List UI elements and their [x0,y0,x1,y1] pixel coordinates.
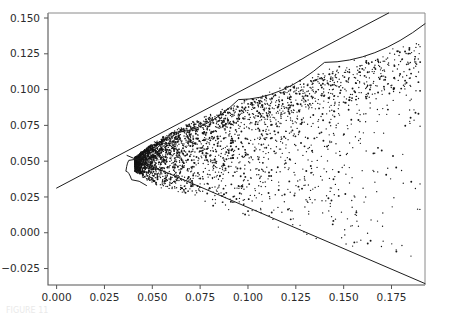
x-tick-label: 0.025 [89,291,119,303]
x-tick-label: 0.125 [281,291,311,303]
y-tick-label: 0.125 [10,47,40,59]
scatter-figure: −0.0250.0000.0250.0500.0750.1000.1250.15… [0,0,451,318]
upper-envelope-curve [129,24,425,161]
x-axis-tick-labels: 0.0000.0250.0500.0750.1000.1250.1500.175 [42,291,407,303]
x-tick-label: 0.150 [329,291,359,303]
y-axis-tick-labels: −0.0250.0000.0250.0500.0750.1000.1250.15… [1,12,40,275]
y-tick-label: 0.150 [10,12,40,24]
y-tick-label: 0.025 [10,191,40,203]
x-axis-ticks [57,285,392,289]
axes-frame [48,13,425,285]
upper-tangent-line [57,13,389,188]
x-tick-label: 0.000 [42,291,72,303]
y-tick-label: 0.000 [10,226,40,238]
x-tick-label: 0.075 [185,291,215,303]
y-tick-label: 0.050 [10,155,40,167]
x-tick-label: 0.175 [376,291,406,303]
y-tick-label: −0.025 [1,262,40,274]
plot-canvas: −0.0250.0000.0250.0500.0750.1000.1250.15… [0,0,451,318]
lower-boundary-line [127,155,425,283]
x-tick-label: 0.100 [233,291,263,303]
y-tick-label: 0.075 [10,119,40,131]
overlay-lines [57,13,425,284]
figure-caption-fragment: FIGURE 11 [6,306,186,315]
scatter-points [134,43,421,257]
y-tick-label: 0.100 [10,83,40,95]
x-tick-label: 0.050 [137,291,167,303]
y-axis-ticks [44,18,48,269]
